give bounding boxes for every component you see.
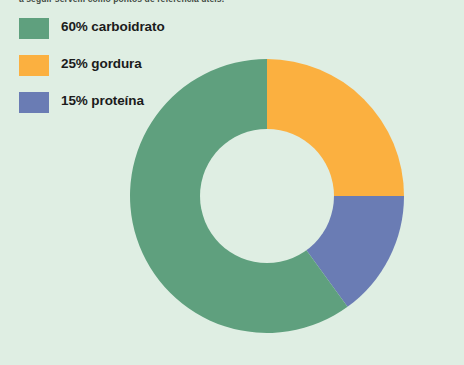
legend-swatch-carboidrato (19, 18, 49, 39)
legend-swatch-proteina (19, 92, 49, 113)
legend-swatch-gordura (19, 55, 49, 76)
donut-chart (130, 59, 404, 333)
donut-center-hole (200, 129, 334, 263)
legend-label-carboidrato: 60% carboidrato (61, 19, 165, 34)
legend-item-carboidrato[interactable]: 60% carboidrato (19, 16, 199, 44)
donut-chart-svg (130, 59, 404, 333)
caption-strip: a seguir servem como pontos de referênci… (0, 0, 464, 8)
caption-text: a seguir servem como pontos de referênci… (19, 0, 224, 4)
page-root: a seguir servem como pontos de referênci… (0, 0, 464, 365)
